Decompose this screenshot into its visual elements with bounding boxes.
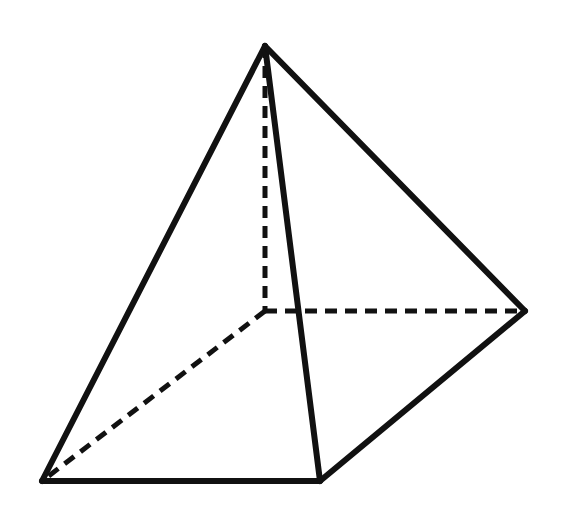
- pyramid-diagram: [0, 0, 568, 522]
- background: [0, 0, 568, 522]
